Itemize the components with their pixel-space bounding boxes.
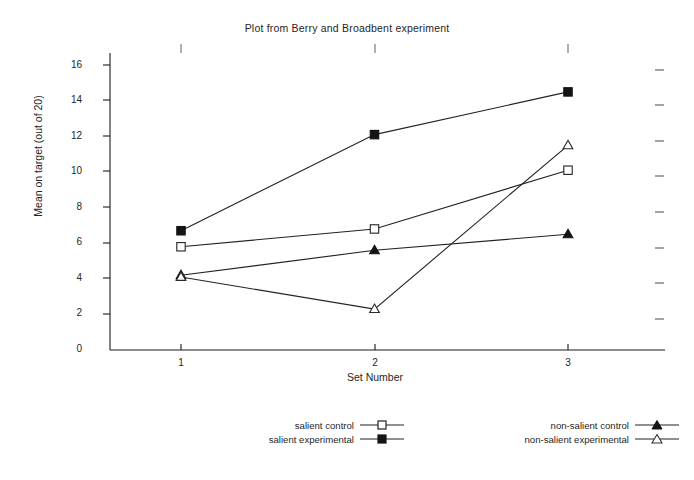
chart-figure: Plot from Berry and Broadbent experiment… [0, 0, 694, 480]
legend-item-non-salient-control[interactable]: non-salient control [430, 418, 680, 432]
legend-marker-open-triangle [634, 433, 680, 445]
legend-marker-open-square [359, 419, 405, 431]
legend-label-salient-control: salient control [154, 420, 359, 431]
top-edge-tick-marks [181, 44, 568, 53]
series-line [181, 170, 568, 247]
y-axis-ticks [103, 65, 110, 314]
legend-label-non-salient-control: non-salient control [434, 420, 634, 431]
legend-label-salient-experimental: salient experimental [154, 434, 359, 445]
data-point-open-square-set-1[interactable] [177, 243, 185, 251]
series-line [181, 234, 568, 275]
legend-left: salient control salient experimental [150, 418, 405, 446]
right-edge-tick-marks [655, 70, 664, 319]
x-axis-ticks [181, 344, 568, 350]
legend-marker-filled-triangle [634, 419, 680, 431]
legend-right: non-salient control non-salient experime… [430, 418, 680, 446]
legend-marker-filled-square [359, 433, 405, 445]
data-point-filled-square-set-3[interactable] [564, 88, 572, 96]
data-point-open-square-set-2[interactable] [370, 225, 378, 233]
plot-area [0, 0, 694, 480]
data-point-filled-triangle-set-3[interactable] [563, 229, 573, 237]
legend-item-salient-experimental[interactable]: salient experimental [150, 432, 405, 446]
series-salient-experimental[interactable] [177, 88, 572, 235]
data-point-open-square-set-3[interactable] [564, 166, 572, 174]
data-point-filled-square-set-1[interactable] [177, 227, 185, 235]
series-non-salient-control[interactable] [176, 229, 573, 278]
legend-item-salient-control[interactable]: salient control [150, 418, 405, 432]
legend-item-non-salient-experimental[interactable]: non-salient experimental [430, 432, 680, 446]
data-point-open-triangle-set-3[interactable] [563, 140, 573, 148]
legend-label-non-salient-experimental: non-salient experimental [434, 434, 634, 445]
series-salient-control[interactable] [177, 166, 572, 251]
data-series-layer [176, 88, 573, 313]
data-point-filled-square-set-2[interactable] [370, 130, 378, 138]
series-line [181, 92, 568, 231]
